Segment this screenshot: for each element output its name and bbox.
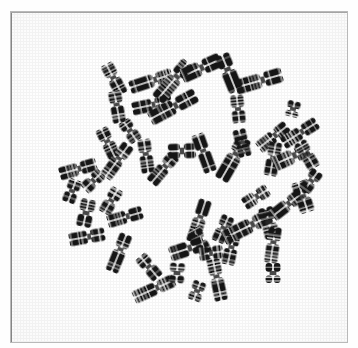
chromosome xyxy=(261,259,285,287)
chromosome-spread-plate xyxy=(11,12,347,342)
micrograph-figure xyxy=(0,0,358,348)
image-frame xyxy=(10,11,348,343)
